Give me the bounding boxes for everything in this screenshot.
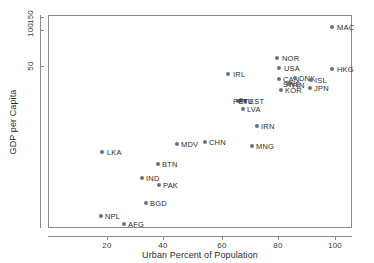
data-point-label: USA (284, 64, 300, 73)
data-point-marker (241, 107, 245, 111)
x-tick-mark (335, 236, 336, 240)
data-point-marker (157, 183, 161, 187)
data-point-marker (277, 77, 281, 81)
y-tick-label-wrapper: 150 (22, 17, 38, 18)
x-tick-mark (278, 236, 279, 240)
data-point-label: IRL (233, 70, 245, 79)
y-tick-mark (40, 66, 44, 67)
data-point-marker (255, 124, 259, 128)
x-axis-line (48, 236, 352, 237)
x-tick-label: 80 (273, 241, 282, 250)
data-point-label: NPL (105, 212, 120, 221)
data-point-label: AFG (128, 220, 144, 229)
data-point-label: BTN (162, 160, 178, 169)
data-point-label: LKA (107, 148, 122, 157)
y-axis-line (40, 15, 41, 228)
y-axis-title: GDP per Capita (8, 89, 18, 154)
y-tick-label: 100 (26, 23, 35, 37)
data-point-marker (99, 214, 103, 218)
data-point-label: IRN (261, 122, 275, 131)
data-point-marker (250, 144, 254, 148)
x-tick-mark (222, 236, 223, 240)
data-point-marker (279, 88, 283, 92)
data-point-label: MNG (256, 142, 274, 151)
y-tick-label-wrapper: 50 (22, 66, 38, 67)
data-point-marker (100, 150, 104, 154)
x-tick-label: 20 (102, 241, 111, 250)
data-point-label: PAK (163, 181, 178, 190)
x-tick-label: 40 (158, 241, 167, 250)
data-point-marker (226, 72, 230, 76)
y-axis-title-wrapper: GDP per Capita (6, 15, 20, 228)
data-point-label: BGD (150, 199, 167, 208)
data-point-label: JPN (314, 84, 329, 93)
y-tick-label: 150 (26, 10, 35, 24)
data-point-marker (275, 56, 279, 60)
y-tick-mark (40, 30, 44, 31)
data-point-label: LVA (247, 105, 261, 114)
y-tick-mark (40, 17, 44, 18)
plot-area (48, 15, 352, 228)
x-axis-title: Urban Percent of Population (48, 250, 352, 260)
data-point-label: NOR (282, 54, 299, 63)
data-point-label: IND (146, 174, 160, 183)
data-point-marker (330, 25, 334, 29)
data-point-label: MDV (181, 140, 198, 149)
data-point-marker (203, 140, 207, 144)
data-point-marker (277, 66, 281, 70)
data-point-label: MAC (337, 23, 354, 32)
data-point-marker (140, 176, 144, 180)
data-point-marker (122, 222, 126, 226)
data-point-marker (308, 86, 312, 90)
x-tick-mark (163, 236, 164, 240)
data-point-label: KOR (285, 86, 302, 95)
x-tick-label: 60 (217, 241, 226, 250)
data-point-label: CHN (209, 138, 226, 147)
y-tick-label: 50 (26, 61, 35, 70)
x-tick-label: 100 (328, 241, 342, 250)
x-tick-mark (107, 236, 108, 240)
data-point-marker (156, 162, 160, 166)
data-point-marker (175, 142, 179, 146)
data-point-marker (309, 78, 313, 82)
y-tick-label-wrapper: 100 (22, 30, 38, 31)
scatter-plot-figure: 20406080100 15010050 MACHKGNORUSACANDNKI… (0, 0, 374, 263)
data-point-label: HKG (337, 65, 354, 74)
data-point-marker (144, 201, 148, 205)
data-point-marker (330, 67, 334, 71)
